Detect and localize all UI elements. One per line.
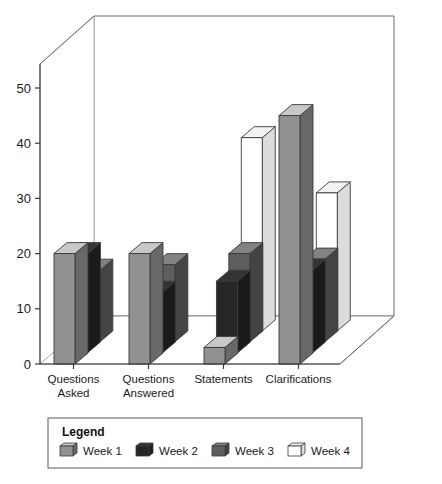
legend-swatch bbox=[136, 446, 149, 456]
bar-front-face bbox=[204, 347, 225, 364]
legend-box: LegendWeek 1Week 2Week 3Week 4 bbox=[48, 418, 362, 468]
legend-label: Week 4 bbox=[311, 445, 350, 457]
chart-figure: 01020304050 QuestionsAskedQuestionsAnswe… bbox=[0, 0, 442, 484]
bar-side-face bbox=[150, 243, 163, 364]
bar-side-face bbox=[325, 248, 338, 342]
y-tick-label: 10 bbox=[17, 301, 31, 316]
category-label: Statements bbox=[194, 373, 252, 385]
legend-title: Legend bbox=[62, 425, 105, 439]
bar-week-1-questions-answered bbox=[129, 243, 163, 364]
category-label: Questions bbox=[48, 373, 100, 385]
bar-side-face bbox=[337, 182, 350, 331]
bar-chart-3d: 01020304050 QuestionsAskedQuestionsAnswe… bbox=[0, 0, 442, 484]
y-tick-label: 30 bbox=[17, 191, 31, 206]
category-label: Questions bbox=[123, 373, 175, 385]
bar-front-face bbox=[54, 254, 75, 364]
bar-week-1-clarifications bbox=[279, 105, 313, 364]
legend-label: Week 3 bbox=[235, 445, 274, 457]
bar-side-face bbox=[250, 243, 263, 342]
y-tick-label: 50 bbox=[17, 81, 31, 96]
bar-side-face bbox=[237, 270, 250, 353]
legend-item-week-4[interactable]: Week 4 bbox=[288, 443, 350, 457]
bar-side-face bbox=[75, 243, 88, 364]
y-tick-label: 20 bbox=[17, 246, 31, 261]
legend-swatch bbox=[212, 446, 225, 456]
y-tick-label: 0 bbox=[24, 357, 31, 372]
legend-label: Week 1 bbox=[83, 445, 122, 457]
category-label: Asked bbox=[58, 387, 90, 399]
legend-swatch bbox=[60, 446, 73, 456]
bar-side-face bbox=[162, 281, 175, 353]
category-label: Answered bbox=[123, 387, 174, 399]
bar-side-face bbox=[100, 259, 113, 342]
legend-label: Week 2 bbox=[159, 445, 198, 457]
bar-side-face bbox=[262, 127, 275, 331]
bar-side-face bbox=[175, 254, 188, 342]
bar-front-face bbox=[279, 116, 300, 364]
bar-side-face bbox=[312, 259, 325, 353]
bar-side-face bbox=[300, 105, 313, 364]
bar-front-face bbox=[129, 254, 150, 364]
bar-side-face bbox=[87, 243, 100, 353]
legend-item-week-3[interactable]: Week 3 bbox=[212, 443, 274, 457]
legend-item-week-1[interactable]: Week 1 bbox=[60, 443, 122, 457]
y-tick-label: 40 bbox=[17, 136, 31, 151]
bar-week-1-questions-asked bbox=[54, 243, 88, 364]
legend-item-week-2[interactable]: Week 2 bbox=[136, 443, 198, 457]
category-label: Clarifications bbox=[266, 373, 332, 385]
legend-swatch bbox=[288, 446, 301, 456]
